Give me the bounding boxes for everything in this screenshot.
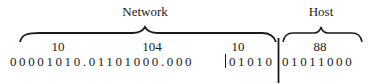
octet-3-decimal: 10 <box>232 40 245 54</box>
octet-4-decimal: 88 <box>314 40 327 54</box>
host-label: Host <box>309 5 334 19</box>
binary-network-bits: 00001010.01101000.000 <box>10 55 194 69</box>
network-label: Network <box>122 5 168 19</box>
octet-2-decimal: 104 <box>142 40 162 54</box>
binary-subnet-bits: 01010 <box>229 55 275 69</box>
octet-1-decimal: 10 <box>52 40 65 54</box>
binary-host-bits: 01011000 <box>282 55 354 69</box>
